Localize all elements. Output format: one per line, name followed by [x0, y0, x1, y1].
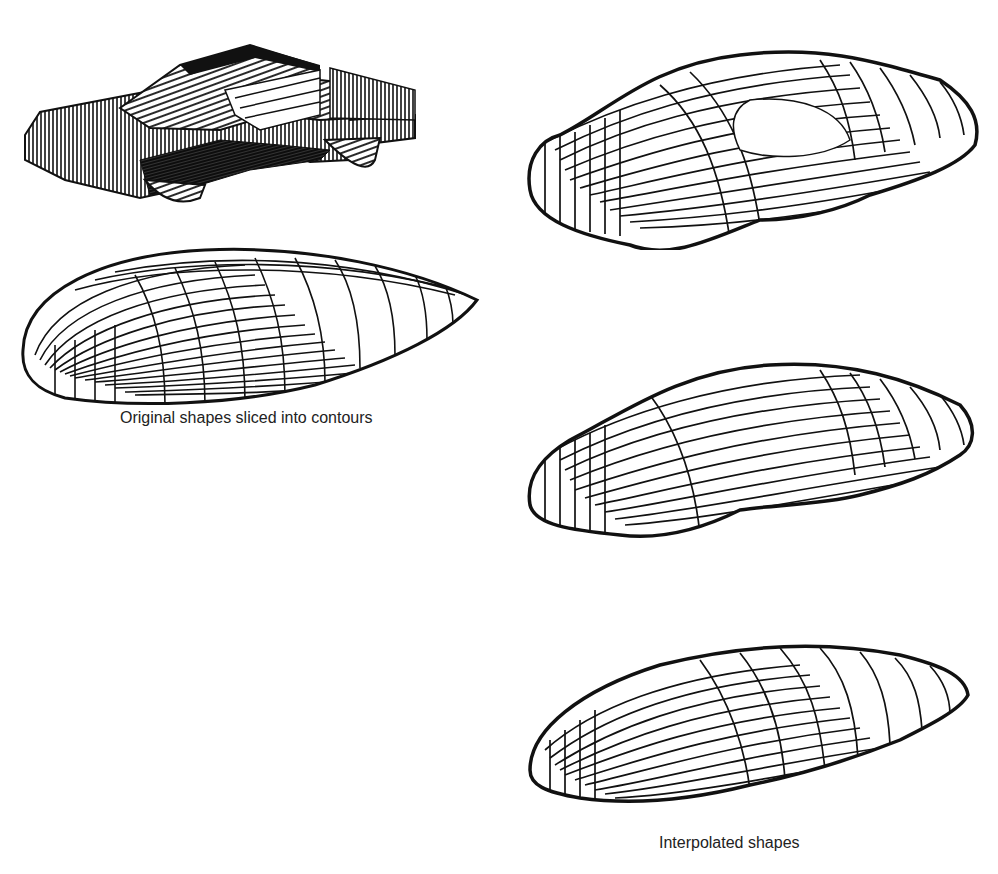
interpolated-shape-2: [520, 335, 980, 545]
interpolated-shape-3: [520, 620, 980, 820]
ellipsoid-contour-icon: [15, 230, 485, 410]
car-contour-icon: [20, 20, 420, 210]
interpolated-contour-icon: [520, 20, 980, 250]
interpolated-contour-icon: [520, 335, 980, 545]
original-ellipsoid-shape: [15, 230, 485, 410]
original-car-shape: [20, 20, 420, 210]
original-shapes-caption: Original shapes sliced into contours: [120, 409, 373, 427]
interpolated-contour-icon: [520, 620, 980, 820]
interpolated-shapes-caption: Interpolated shapes: [659, 834, 800, 852]
interpolated-shape-1: [520, 20, 980, 250]
